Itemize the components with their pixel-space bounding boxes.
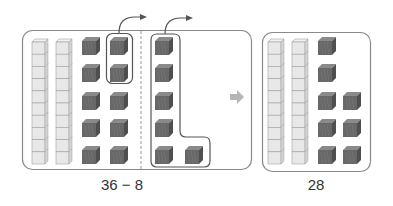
tens-rod bbox=[292, 39, 308, 164]
broken-rod-cubes bbox=[155, 37, 203, 164]
result-label: 28 bbox=[286, 176, 346, 193]
expression-label: 36 − 8 bbox=[82, 176, 162, 193]
tens-rod bbox=[268, 39, 284, 164]
tens-rod bbox=[32, 39, 48, 164]
right-arrow-icon bbox=[230, 90, 244, 104]
ones-cube-group bbox=[318, 37, 361, 164]
ones-cube-group bbox=[82, 37, 128, 164]
remove-arrow-icon bbox=[165, 18, 187, 34]
tens-rod bbox=[56, 39, 72, 164]
